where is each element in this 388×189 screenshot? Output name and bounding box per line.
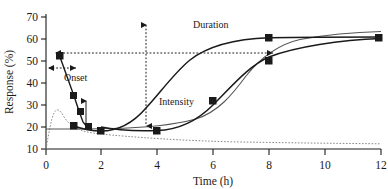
- y-axis-title: Response (%): [3, 50, 16, 114]
- y-tick-label-60: 60: [27, 33, 39, 45]
- y-tick-label-10: 10: [27, 143, 39, 155]
- marker-fast-8h: [265, 57, 273, 65]
- y-tick-label-50: 50: [27, 55, 39, 67]
- x-tick-label-2: 2: [98, 159, 104, 171]
- marker-fast-1h: [70, 122, 78, 130]
- marker-declining-0: [56, 52, 64, 60]
- marker-declining-1: [70, 92, 77, 99]
- annotation-onset-label: Onset: [64, 72, 88, 83]
- y-tick-label-20: 20: [27, 121, 39, 133]
- marker-medium-4h: [153, 127, 161, 135]
- marker-medium-12h: [375, 34, 383, 42]
- y-tick-label-70: 70: [27, 11, 39, 23]
- x-axis-tick-labels: 0 2 4 6 8 10 12: [43, 159, 387, 171]
- x-axis-title: Time (h): [193, 175, 233, 188]
- marker-declining-2: [77, 108, 84, 115]
- y-axis-tick-labels: 70 60 50 40 30 20 10: [27, 11, 39, 155]
- marker-fast-6h: [209, 97, 217, 105]
- series-medium-rising-sigmoid: [101, 39, 381, 131]
- marker-fast-2h: [97, 127, 105, 135]
- series-slow-rising-sigmoid: [46, 32, 381, 130]
- series-decaying-dotted-baseline: [46, 110, 381, 149]
- y-tick-label-30: 30: [27, 99, 39, 111]
- data-markers: [56, 34, 383, 135]
- marker-declining-3: [85, 123, 92, 130]
- marker-medium-8h: [265, 34, 273, 42]
- x-tick-label-10: 10: [319, 159, 331, 171]
- y-tick-label-40: 40: [27, 77, 39, 89]
- y-axis-ticks: [41, 17, 46, 149]
- x-tick-label-6: 6: [210, 159, 216, 171]
- x-tick-label-8: 8: [266, 159, 272, 171]
- chart-canvas: 70 60 50 40 30 20 10 0 2 4 6 8 10 12: [0, 0, 388, 189]
- annotation-duration-label: Duration: [193, 19, 229, 30]
- x-axis-ticks: [46, 149, 381, 155]
- x-tick-label-12: 12: [375, 159, 387, 171]
- response-time-chart: 70 60 50 40 30 20 10 0 2 4 6 8 10 12: [0, 0, 388, 189]
- annotation-intensity-label: Intensity: [159, 96, 194, 107]
- x-tick-label-4: 4: [154, 159, 160, 171]
- x-tick-label-0: 0: [43, 159, 49, 171]
- series-fast-rising-sigmoid: [74, 37, 381, 131]
